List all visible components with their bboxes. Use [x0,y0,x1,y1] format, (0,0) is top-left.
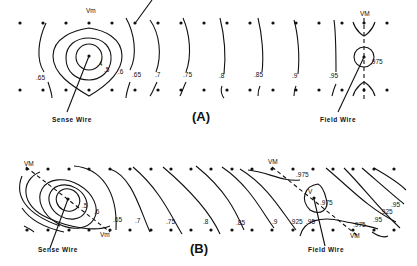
panel-a-label: (A) [192,109,210,124]
panel-a-arrow-top [136,0,152,22]
panel-b: VM Vm VM VM V .5 .6 .65 .7 .75 .8 .85 .9… [20,158,406,256]
contour-label: .95 [391,201,400,208]
contour-label: .975 [353,221,366,228]
panel-b-vm-bottom-right: VM [350,232,360,239]
contour-label: .95 [306,218,315,225]
contour-label: .75 [183,71,192,78]
contour-label: .75 [166,218,175,225]
panel-a-equipotential-lines [39,18,336,98]
panel-a-sense-contours [53,28,122,96]
panel-b-bottom-wire-row [25,228,395,231]
contour-label: .95 [373,216,382,223]
contour-label: .85 [254,71,263,78]
panel-a-top-wire-row [18,21,388,24]
contour-label: .95 [329,72,338,79]
panel-a-field-wire-label: Field Wire [320,116,356,123]
panel-b-sense-wire-label: Sense Wire [38,246,78,253]
contour-label: .6 [94,208,100,215]
contour-label: .7 [155,71,161,78]
panel-a: Vm VM .4 .5 .6 .65 .65 .7 .75 .8 .85 .9 … [18,0,388,124]
panel-b-top-wire-row [25,167,395,170]
panel-b-field-wire-label: Field Wire [308,246,344,253]
contour-label: .6 [118,68,124,75]
panel-b-vm-top-right: VM [268,158,278,165]
panel-b-vm-top-left: VM [24,160,34,167]
panel-b-v-center: V [308,188,313,195]
contour-label: .9 [292,72,298,79]
panel-a-vm-left: Vm [86,7,96,14]
panel-b-vm-bottom-left: Vm [100,231,110,238]
contour-label: .975 [296,171,309,178]
panel-a-vm-right: VM [360,10,370,17]
contour-label: .9 [272,218,278,225]
contour-label: .925 [290,218,303,225]
equipotential-diagram: Vm VM .4 .5 .6 .65 .65 .7 .75 .8 .85 .9 … [0,0,417,266]
contour-label: .65 [36,74,45,81]
panel-b-field-wire-leader [314,199,325,246]
contour-label: .5 [104,66,110,73]
contour-label: .85 [236,219,245,226]
contour-label: .975 [370,58,383,65]
contour-label: .65 [113,216,122,223]
contour-label: .4 [97,60,103,67]
contour-label: .5 [82,202,88,209]
panel-b-label: (B) [190,241,208,256]
panel-a-sense-wire-label: Sense Wire [52,116,92,123]
contour-label: .7 [135,217,141,224]
contour-label: .8 [203,218,209,225]
panel-b-sense-contours [20,170,110,238]
contour-label: .975 [320,199,333,206]
contour-label: .8 [219,72,225,79]
contour-label: .65 [132,71,141,78]
contour-label: .925 [380,208,393,215]
